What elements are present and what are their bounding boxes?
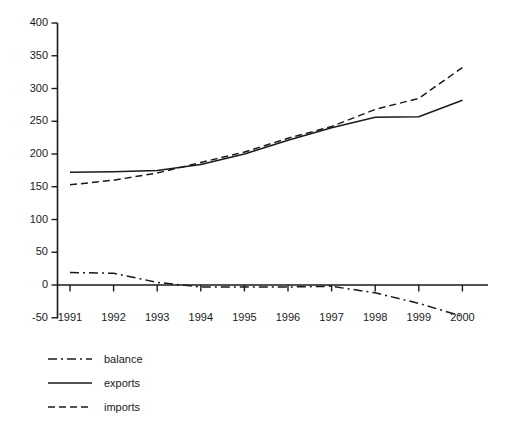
- series-line-exports: [70, 100, 462, 172]
- x-tick-label: 1991: [48, 312, 92, 323]
- y-tick-label: 100: [0, 214, 48, 225]
- series-line-balance: [70, 273, 462, 317]
- y-tick-label: 300: [0, 83, 48, 94]
- series-line-imports: [70, 68, 462, 185]
- y-tick-label: 50: [0, 246, 48, 257]
- x-axis-ticks: [70, 285, 462, 292]
- y-tick-label: 250: [0, 115, 48, 126]
- x-tick-label: 1993: [135, 312, 179, 323]
- y-tick-label: 350: [0, 50, 48, 61]
- line-chart: -50050100150200250300350400 199119921993…: [0, 0, 511, 431]
- y-tick-label: 150: [0, 181, 48, 192]
- x-tick-label: 1995: [222, 312, 266, 323]
- legend-label-imports: imports: [104, 402, 140, 413]
- y-tick-label: 0: [0, 279, 48, 290]
- plot-area: [0, 0, 511, 431]
- y-tick-label: 200: [0, 148, 48, 159]
- x-tick-label: 1996: [266, 312, 310, 323]
- y-axis-ticks: [52, 23, 58, 318]
- x-tick-label: 1999: [397, 312, 441, 323]
- x-tick-label: 1998: [353, 312, 397, 323]
- x-tick-label: 1994: [179, 312, 223, 323]
- y-tick-label: 400: [0, 17, 48, 28]
- legend-label-exports: exports: [104, 378, 140, 389]
- x-tick-label: 1992: [92, 312, 136, 323]
- y-tick-label: -50: [0, 312, 48, 323]
- x-tick-label: 1997: [310, 312, 354, 323]
- x-tick-label: 2000: [440, 312, 484, 323]
- legend-label-balance: balance: [104, 354, 143, 365]
